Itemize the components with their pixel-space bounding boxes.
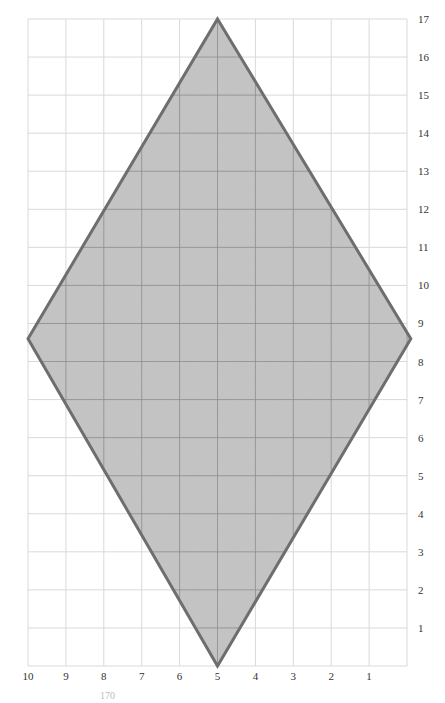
x-axis-label: 4 [253, 670, 259, 682]
y-axis-label: 7 [418, 394, 424, 406]
y-axis-label: 15 [418, 89, 430, 101]
y-axis-label: 8 [418, 356, 424, 368]
y-axis-label: 17 [418, 13, 430, 25]
y-axis-label: 9 [418, 317, 424, 329]
y-axis-label: 2 [418, 584, 424, 596]
y-axis-label: 11 [418, 241, 429, 253]
rhombus-texture [28, 19, 411, 666]
y-axis-label: 14 [418, 127, 430, 139]
x-axis-label: 7 [139, 670, 145, 682]
x-axis-label: 8 [101, 670, 107, 682]
x-axis-label: 10 [23, 670, 35, 682]
x-axis-label: 2 [328, 670, 334, 682]
y-axis-label: 3 [418, 546, 424, 558]
y-axis-label: 5 [418, 470, 424, 482]
x-axis-label: 6 [177, 670, 183, 682]
y-axis-label: 16 [418, 51, 430, 63]
y-axis-label: 6 [418, 432, 424, 444]
y-axis-label: 12 [418, 203, 429, 215]
y-axis-label: 4 [418, 508, 424, 520]
rhombus-grid-diagram: 10987654321 1234567891011121314151617 [0, 0, 445, 703]
caption-text: 170 [100, 690, 115, 701]
y-axis-label: 10 [418, 279, 430, 291]
x-axis-label: 5 [215, 670, 221, 682]
x-axis-labels: 10987654321 [23, 670, 372, 682]
y-axis-label: 13 [418, 165, 430, 177]
y-axis-labels: 1234567891011121314151617 [418, 13, 430, 634]
x-axis-label: 3 [291, 670, 297, 682]
y-axis-label: 1 [418, 622, 424, 634]
rhombus-fill [28, 19, 411, 666]
x-axis-label: 1 [366, 670, 372, 682]
x-axis-label: 9 [63, 670, 69, 682]
